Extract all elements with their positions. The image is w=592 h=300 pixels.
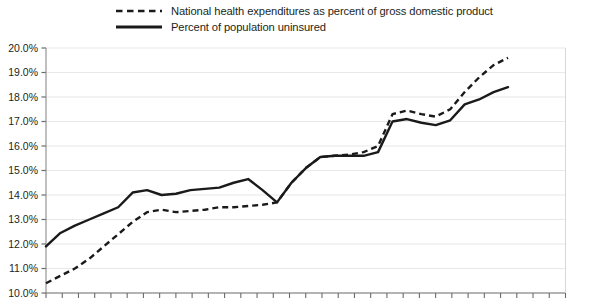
legend-label-uninsured: Percent of population uninsured: [171, 21, 326, 34]
solid-line-swatch-icon: [115, 22, 163, 32]
plot-background: [0, 35, 592, 300]
y-tick-label: 19.0%: [8, 66, 38, 78]
y-tick-label: 12.0%: [8, 238, 38, 250]
y-tick-label: 11.0%: [9, 262, 38, 274]
dashed-line-swatch-icon: [115, 6, 163, 16]
plot-area: 10.0%11.0%12.0%13.0%14.0%15.0%16.0%17.0%…: [0, 35, 592, 300]
chart-legend: National health expenditures as percent …: [115, 3, 575, 35]
y-tick-label: 18.0%: [8, 91, 38, 103]
chart-figure: National health expenditures as percent …: [0, 0, 592, 300]
y-tick-label: 13.0%: [8, 213, 38, 225]
y-tick-label: 15.0%: [8, 164, 38, 176]
y-tick-label: 10.0%: [8, 287, 38, 299]
legend-label-nhe: National health expenditures as percent …: [171, 5, 493, 18]
legend-item-uninsured: Percent of population uninsured: [115, 19, 575, 35]
legend-item-nhe: National health expenditures as percent …: [115, 3, 575, 19]
y-tick-label: 16.0%: [8, 140, 38, 152]
y-tick-label: 14.0%: [8, 189, 38, 201]
y-tick-label: 17.0%: [8, 115, 38, 127]
y-tick-label: 20.0%: [8, 42, 38, 54]
